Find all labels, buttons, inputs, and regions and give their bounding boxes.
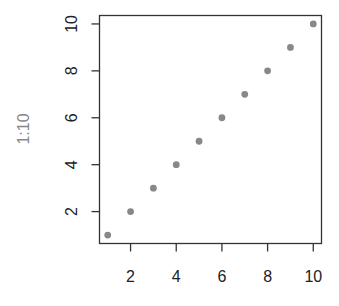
data-point <box>241 91 248 98</box>
x-tick-label: 8 <box>263 268 272 285</box>
data-point <box>310 21 317 28</box>
y-tick-label: 4 <box>63 160 80 169</box>
data-point <box>104 232 111 239</box>
y-tick-label: 6 <box>63 113 80 122</box>
data-point <box>264 67 271 74</box>
y-axis-label: 1:10 <box>15 113 32 144</box>
data-point <box>287 44 294 51</box>
y-tick-label: 2 <box>63 207 80 216</box>
x-tick-label: 10 <box>304 268 322 285</box>
y-tick-label: 8 <box>63 66 80 75</box>
data-point <box>127 208 134 215</box>
y-tick-label: 10 <box>63 15 80 33</box>
data-point <box>173 161 180 168</box>
x-tick-label: 2 <box>126 268 135 285</box>
scatter-plot: 246810 246810 1:10 <box>0 0 339 306</box>
data-point <box>219 114 226 121</box>
data-point <box>150 185 157 192</box>
x-tick-label: 6 <box>217 268 226 285</box>
data-point <box>196 138 203 145</box>
x-tick-label: 4 <box>172 268 181 285</box>
